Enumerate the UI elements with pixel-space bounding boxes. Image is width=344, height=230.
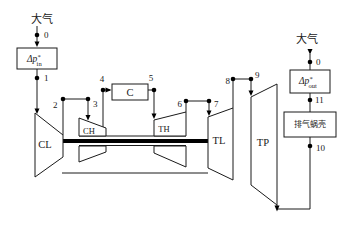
atmosphere-label-right: 大气 (296, 32, 318, 45)
hp-turbine-label: TH (158, 124, 169, 134)
lp-turbine-label: TL (213, 135, 226, 146)
hp-compressor-lower (79, 146, 106, 162)
station-1-label: 1 (44, 73, 49, 83)
exhaust-volute-label: 排气蜗壳 (294, 119, 326, 129)
station-11-node (308, 98, 313, 103)
station-3-label: 3 (93, 99, 98, 109)
station-7-node (207, 99, 212, 104)
station-2-label: 2 (53, 100, 58, 110)
gas-turbine-cycle-diagram: 大气 大气 0 1 2 3 4 5 6 7 8 9 10 11 0 CL CH … (0, 0, 344, 230)
arrow-down-into-tl-icon (207, 111, 212, 117)
arrow-down-into-tp-icon (249, 91, 254, 97)
hp-turbine-lower (154, 146, 186, 167)
diagram-canvas: 大气 大气 0 1 2 3 4 5 6 7 8 9 10 11 0 CL CH … (0, 0, 344, 230)
station-9-label: 9 (255, 70, 260, 80)
station-4-label: 4 (100, 74, 105, 84)
station-6-label: 6 (178, 99, 183, 109)
station-10-node (308, 144, 313, 149)
station-0-outlet-node (308, 60, 313, 65)
station-1-node (35, 76, 40, 81)
station-4-node (101, 88, 106, 93)
lp-shaft (62, 139, 208, 143)
station-5-label: 5 (149, 73, 154, 83)
station-7-label: 7 (214, 99, 219, 109)
combustor-label: C (126, 87, 133, 98)
station-3-node (86, 97, 91, 102)
station-9-node (249, 77, 254, 82)
hp-compressor-label: CH (83, 126, 95, 136)
station-6-node (184, 99, 189, 104)
station-0-outlet-label: 0 (316, 57, 321, 67)
lp-compressor-label: CL (38, 139, 51, 150)
station-8-node (231, 77, 236, 82)
station-11-label: 11 (315, 95, 324, 105)
station-5-node (152, 88, 157, 93)
arrow-down-into-inlet-box-icon (35, 42, 40, 48)
station-0-inlet-node (35, 33, 40, 38)
atmosphere-label-left: 大气 (31, 12, 53, 25)
power-turbine-label: TP (257, 137, 269, 148)
station-8-label: 8 (226, 76, 231, 86)
arrow-up-to-atmosphere-icon (308, 49, 313, 55)
station-10-label: 10 (316, 143, 326, 153)
arrow-down-into-ch-icon (86, 115, 91, 121)
arrow-down-into-th-icon (152, 114, 157, 120)
turbomachines (35, 84, 277, 205)
arrow-right-into-combustor-icon (106, 88, 112, 93)
station-2-node (61, 97, 66, 102)
station-0-inlet-label: 0 (44, 30, 49, 40)
